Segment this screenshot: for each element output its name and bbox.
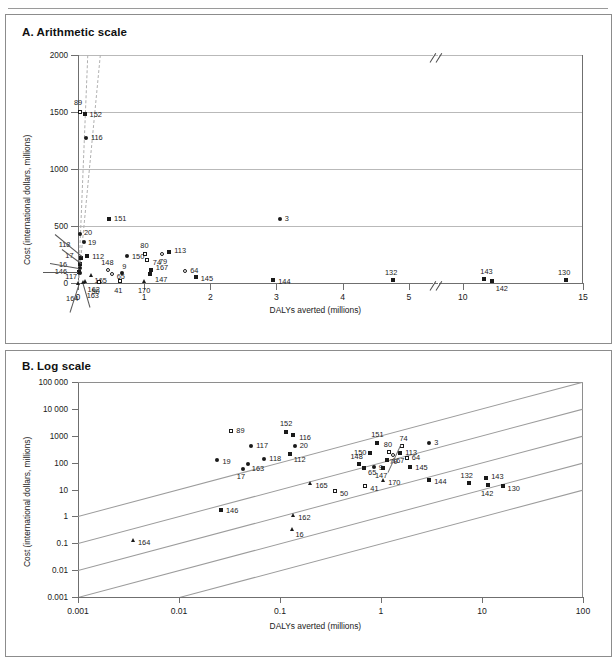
panel-b-point-label-80: 80 bbox=[384, 441, 392, 448]
panel-b-point-162 bbox=[291, 513, 295, 517]
panel-a-point-150 bbox=[125, 254, 129, 258]
panel-a-point-label-64: 64 bbox=[190, 267, 198, 274]
panel-b-point-20 bbox=[293, 444, 297, 448]
panel-b-point-9 bbox=[372, 465, 376, 469]
panel-b-isoline-1 bbox=[78, 463, 583, 597]
panel-a-point-label-117: 117 bbox=[65, 273, 77, 280]
panel-a-point-79 bbox=[160, 252, 164, 256]
panel-a-point-80 bbox=[143, 252, 147, 256]
panel-b-point-label-144: 144 bbox=[434, 478, 446, 485]
panel-a-point-117 bbox=[78, 271, 82, 275]
panel-a-x-axis-title: DALYs averted (millions) bbox=[270, 305, 362, 315]
panel-b-point-label-162: 162 bbox=[298, 514, 310, 521]
panel-a-y-tick bbox=[71, 55, 78, 56]
panel-b-x-axis-line bbox=[78, 597, 583, 598]
panel-a-x-tick bbox=[343, 283, 344, 290]
panel-a-y-tick bbox=[71, 169, 78, 170]
panel-a-gridline bbox=[78, 169, 583, 170]
panel-a-point-142 bbox=[490, 279, 494, 283]
panel-a-point-19 bbox=[82, 240, 86, 244]
panel-a-point-118 bbox=[79, 256, 83, 260]
panel-a-point-label-170: 170 bbox=[138, 287, 150, 294]
panel-b-x-tick bbox=[179, 597, 180, 603]
panel-b-point-151 bbox=[375, 441, 379, 445]
panel-b-y-tick-label: 100 000 bbox=[20, 378, 68, 387]
panel-b-point-label-170: 170 bbox=[388, 479, 400, 486]
panel-a-point-116 bbox=[84, 136, 88, 140]
panel-a-point-41 bbox=[118, 279, 122, 283]
panel-b-isoline-1000 bbox=[78, 382, 583, 517]
panel-b-x-tick-label: 100 bbox=[576, 606, 590, 616]
panel-a-point-label-19: 19 bbox=[88, 239, 96, 246]
panel-a-title: A. Arithmetic scale bbox=[22, 26, 127, 38]
panel-b-x-tick bbox=[78, 597, 79, 603]
panel-a-point-165 bbox=[89, 273, 93, 277]
panel-a-point-170 bbox=[142, 279, 146, 283]
panel-b-isoline-100 bbox=[78, 409, 583, 544]
panel-b-isoline-10 bbox=[78, 436, 583, 571]
panel-a-point-112 bbox=[85, 254, 89, 258]
panel-b-point-144 bbox=[427, 478, 431, 482]
panel-a-point-label-152: 152 bbox=[90, 111, 102, 118]
panel-b-x-tick bbox=[280, 597, 281, 603]
panel-b-point-label-118: 118 bbox=[269, 455, 281, 462]
panel-b-point-label-41: 41 bbox=[370, 485, 378, 492]
panel-b-point-label-117: 117 bbox=[256, 442, 268, 449]
panel-b-point-label-112: 112 bbox=[294, 456, 306, 463]
panel-b-point-152 bbox=[284, 430, 288, 434]
panel-a-y-tick-label: 0 bbox=[22, 279, 68, 288]
panel-a-point-74 bbox=[145, 258, 149, 262]
panel-a-x-tick-label: 3 bbox=[274, 292, 279, 302]
panel-b-point-label-165: 165 bbox=[315, 482, 327, 489]
panel-b-y-tick-label: 10 000 bbox=[20, 404, 68, 413]
panel-b-point-label-152: 152 bbox=[280, 420, 292, 427]
panel-b-point-label-116: 116 bbox=[299, 434, 311, 441]
panel-a-point-label-130: 130 bbox=[558, 269, 570, 276]
panel-b-point-116 bbox=[291, 433, 295, 437]
panel-b-x-tick-label: 1 bbox=[379, 606, 384, 616]
panel-a-point-label-116: 116 bbox=[91, 134, 103, 141]
panel-a-x-tick-label: 4 bbox=[340, 292, 345, 302]
panel-b-point-label-163: 163 bbox=[252, 465, 264, 472]
panel-b-point-label-143: 143 bbox=[491, 473, 503, 480]
panel-a-point-label-143: 143 bbox=[480, 268, 492, 275]
panel-b-point-145 bbox=[408, 465, 412, 469]
panel-b-point-167 bbox=[385, 458, 389, 462]
panel-a-point-151 bbox=[107, 217, 111, 221]
panel-b-point-163 bbox=[246, 462, 250, 466]
panel-a-y-tick bbox=[71, 112, 78, 113]
panel-a-y-axis-title: Cost (international dollars, millions) bbox=[22, 134, 32, 264]
panel-b-x-axis-title: DALYs averted (millions) bbox=[270, 621, 362, 631]
panel-a-x-tick bbox=[583, 283, 584, 290]
panel-b-point-3 bbox=[427, 441, 431, 445]
panel-a-x-tick bbox=[409, 283, 410, 290]
panel-a-point-113 bbox=[167, 250, 171, 254]
panel-a-x-tick bbox=[463, 283, 464, 290]
panel-b-point-50 bbox=[333, 489, 337, 493]
panel-b-point-89 bbox=[229, 429, 233, 433]
panel-a-x-tick bbox=[210, 283, 211, 290]
panel-b-point-label-64: 64 bbox=[412, 454, 420, 461]
panel-a-x-tick-label: 15 bbox=[578, 292, 588, 302]
panel-a-point-label-113: 113 bbox=[174, 247, 186, 254]
panel-b-point-label-130: 130 bbox=[508, 485, 520, 492]
panel-b-point-label-164: 164 bbox=[138, 539, 150, 546]
panel-a-point-147 bbox=[148, 272, 152, 276]
panel-a-point-label-147: 147 bbox=[155, 276, 167, 283]
panel-b-point-label-132: 132 bbox=[461, 472, 473, 479]
panel-a-point-label-132: 132 bbox=[385, 269, 397, 276]
panel-a-point-label-145: 145 bbox=[201, 275, 213, 282]
panel-b-point-64 bbox=[405, 456, 409, 460]
panel-a-point-145 bbox=[194, 275, 198, 279]
panel-b-point-170 bbox=[381, 478, 385, 482]
panel-b-point-label-16: 16 bbox=[296, 531, 304, 538]
panel-b-x-tick-label: 10 bbox=[477, 606, 487, 616]
panel-a-x-tick-label: 2 bbox=[208, 292, 213, 302]
panel-b-x-tick bbox=[482, 597, 483, 603]
panel-a-point-label-41: 41 bbox=[114, 287, 122, 294]
panel-a-point-152 bbox=[83, 112, 87, 116]
panel-b-point-label-146: 146 bbox=[226, 507, 238, 514]
panel-a-point-label-167: 167 bbox=[156, 264, 168, 271]
panel-a-point-20 bbox=[78, 232, 82, 236]
panel-b-y-axis-title: Cost (international dollars, millions) bbox=[22, 437, 32, 567]
